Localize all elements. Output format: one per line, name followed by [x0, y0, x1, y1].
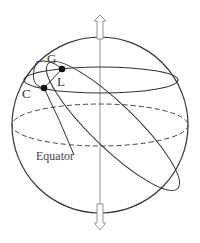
label-equator: Equator	[36, 149, 74, 163]
point-c	[41, 85, 48, 92]
south-arrow-icon	[94, 204, 106, 230]
celestial-sphere-diagram: G L C Equator	[0, 0, 200, 243]
label-c: C	[22, 86, 31, 101]
north-arrow-icon	[94, 15, 106, 39]
point-l	[59, 66, 66, 73]
label-l: L	[57, 74, 65, 89]
label-g: G	[47, 51, 56, 66]
